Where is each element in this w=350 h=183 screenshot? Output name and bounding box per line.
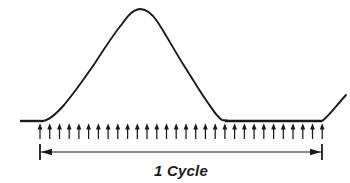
arrow-marker (38, 123, 43, 139)
arrow-marker (193, 123, 198, 139)
arrow-marker (223, 123, 228, 139)
arrow-marker (164, 123, 169, 139)
arrow-marker (115, 123, 120, 139)
arrow-marker (67, 123, 72, 139)
arrow-marker (184, 123, 189, 139)
arrow-marker (252, 123, 257, 139)
cam-lift-curve (43, 9, 228, 121)
arrow-marker (96, 123, 101, 139)
arrow-marker (310, 123, 315, 139)
arrow-marker (57, 123, 62, 139)
arrow-row (38, 123, 325, 139)
arrow-marker (135, 123, 140, 139)
arrow-marker (242, 123, 247, 139)
arrow-marker (261, 123, 266, 139)
rising-tail-curve (322, 95, 346, 121)
arrow-marker (145, 123, 150, 139)
arrow-marker (320, 123, 325, 139)
arrow-marker (77, 123, 82, 139)
arrow-marker (281, 123, 286, 139)
cycle-dimension: 1 Cycle (40, 144, 322, 179)
arrow-marker (271, 123, 276, 139)
arrow-marker (203, 123, 208, 139)
dimension-arrowhead-left (41, 149, 52, 155)
arrow-marker (213, 123, 218, 139)
lift-profile-curve (20, 9, 346, 121)
arrow-marker (291, 123, 296, 139)
arrow-marker (125, 123, 130, 139)
valve-lift-cycle-diagram: 1 Cycle (0, 0, 350, 183)
figure-root: 1 Cycle (0, 0, 350, 183)
arrow-marker (106, 123, 111, 139)
arrow-marker (154, 123, 159, 139)
cycle-label: 1 Cycle (154, 162, 208, 179)
arrow-marker (232, 123, 237, 139)
arrow-marker (86, 123, 91, 139)
arrow-marker (174, 123, 179, 139)
arrow-marker (47, 123, 52, 139)
dimension-arrowhead-right (310, 149, 321, 155)
arrow-marker (300, 123, 305, 139)
